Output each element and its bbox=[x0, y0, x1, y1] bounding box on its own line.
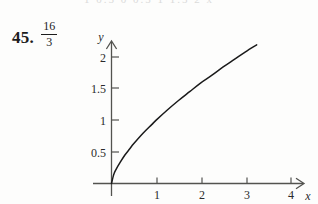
x-tick-label-4: 4 bbox=[288, 188, 294, 202]
x-tick-labels: 1 2 3 4 bbox=[154, 188, 294, 202]
x-tick-label-2: 2 bbox=[199, 188, 205, 202]
y-tick-labels: 0.5 1 1.5 2 bbox=[91, 51, 106, 160]
figure-page: 1 0.5 0 0.5 1 1.5 2 x 45. 16 3 bbox=[0, 0, 318, 204]
x-axis-label: x bbox=[304, 189, 311, 203]
y-tick-marks bbox=[112, 57, 120, 152]
y-tick-label-0-5: 0.5 bbox=[91, 146, 106, 160]
graph-figure: 1 2 3 4 0.5 1 1.5 2 y x bbox=[0, 0, 318, 204]
curve-series-1 bbox=[112, 45, 257, 184]
x-tick-marks bbox=[157, 178, 291, 184]
y-tick-label-2: 2 bbox=[100, 51, 106, 65]
y-axis-label: y bbox=[97, 30, 104, 44]
x-tick-label-3: 3 bbox=[244, 188, 250, 202]
y-tick-label-1: 1 bbox=[100, 114, 106, 128]
x-tick-label-1: 1 bbox=[154, 188, 160, 202]
y-tick-label-1-5: 1.5 bbox=[91, 82, 106, 96]
